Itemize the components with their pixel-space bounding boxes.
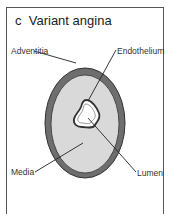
lumen-label: Lumen	[137, 168, 163, 178]
media-label: Media	[11, 167, 34, 177]
endothelium-label: Endothelium	[117, 46, 164, 56]
artery-cross-section	[0, 0, 170, 214]
adventitia-label: Adventitia	[11, 46, 48, 56]
